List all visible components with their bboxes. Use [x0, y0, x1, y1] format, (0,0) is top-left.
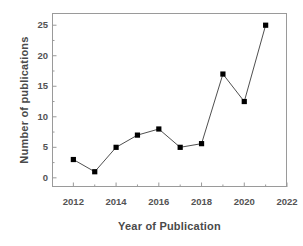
x-tick-label: 2012 — [53, 196, 93, 207]
y-axis-minor-ticks — [52, 40, 55, 162]
x-axis-title: Year of Publication — [52, 220, 287, 232]
data-point-marker — [92, 169, 97, 174]
data-point-markers — [71, 23, 268, 175]
data-point-marker — [263, 23, 268, 28]
x-axis-minor-ticks — [95, 185, 266, 188]
data-point-marker — [156, 126, 161, 131]
x-tick-label: 2014 — [96, 196, 136, 207]
x-tick-label: 2020 — [224, 196, 264, 207]
x-tick-label: 2016 — [139, 196, 179, 207]
y-axis-title: Number of publications — [18, 10, 30, 190]
x-axis-tick-labels: 201220142016201820202022 — [0, 196, 303, 210]
x-tick-label: 2022 — [267, 196, 303, 207]
x-tick-label: 2018 — [182, 196, 222, 207]
data-point-marker — [135, 133, 140, 138]
data-point-marker — [220, 71, 225, 76]
data-point-marker — [178, 145, 183, 150]
data-point-marker — [199, 141, 204, 146]
data-point-marker — [242, 99, 247, 104]
data-point-marker — [113, 145, 118, 150]
publications-line-chart: 0510152025 201220142016201820202022 Year… — [0, 0, 303, 246]
data-line — [73, 25, 265, 172]
data-point-marker — [71, 157, 76, 162]
